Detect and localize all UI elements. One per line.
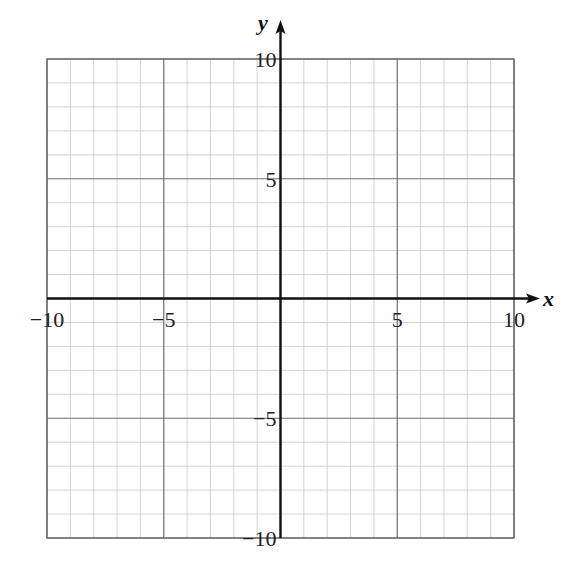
coordinate-plane: −10−5510105−5−10 x y [0, 0, 584, 572]
x-axis-label: x [542, 286, 554, 311]
y-axis-label: y [255, 10, 268, 35]
x-tick-label: −5 [152, 307, 175, 332]
y-tick-label: 10 [255, 47, 277, 72]
axes [47, 20, 540, 538]
x-tick-label: 5 [392, 307, 403, 332]
x-tick-label: −10 [30, 307, 64, 332]
y-tick-label: −5 [253, 406, 276, 431]
y-tick-label: −10 [242, 526, 276, 551]
y-tick-label: 5 [266, 167, 277, 192]
x-tick-label: 10 [503, 307, 525, 332]
